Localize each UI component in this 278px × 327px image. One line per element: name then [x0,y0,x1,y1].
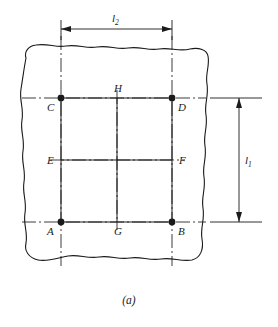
point-label-G: G [114,225,122,237]
point-label-F: F [178,154,186,166]
point-marker-C [58,95,65,102]
point-label-A: A [46,225,54,237]
point-label-C: C [47,101,55,113]
point-label-H: H [113,82,123,94]
point-marker-A [58,219,65,226]
figure-container: A B C D E F G H l2 l1 (a) [0,0,278,327]
point-label-E: E [46,154,54,166]
point-label-B: B [178,225,185,237]
arrowhead-bottom-l1 [236,212,242,222]
point-marker-D [169,95,176,102]
dimension-label-l2: l2 [112,12,119,27]
point-marker-B [169,219,176,226]
technical-drawing-svg: A B C D E F G H l2 l1 (a) [0,0,278,327]
arrowhead-right-l2 [162,26,172,32]
arrowhead-left-l2 [61,26,71,32]
point-label-D: D [177,101,186,113]
figure-caption: (a) [122,294,136,307]
dimension-label-l1: l1 [245,154,252,169]
arrowhead-top-l1 [236,98,242,108]
dimension-subscript-l2: 2 [115,18,119,27]
dimension-subscript-l1: 1 [248,160,252,169]
